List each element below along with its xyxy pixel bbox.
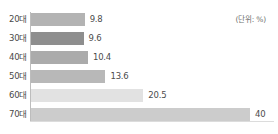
bar-track: 10.4 xyxy=(31,51,274,64)
baseline-rule xyxy=(30,121,274,122)
category-label: 50대 xyxy=(0,67,27,86)
bar-segment xyxy=(31,89,143,102)
plot-area: 20대 9.8 30대 9.6 40대 10.4 50대 13. xyxy=(0,10,278,124)
category-label: 30대 xyxy=(0,29,27,48)
category-label: 40대 xyxy=(0,48,27,67)
bar-segment xyxy=(31,51,88,64)
bar-track: 13.6 xyxy=(31,70,274,83)
bar-value-label: 20.5 xyxy=(148,89,166,102)
category-label: 60대 xyxy=(0,86,27,105)
bar-chart: (단위: %) 20대 9.8 30대 9.6 40대 10.4 50 xyxy=(0,0,278,134)
bar-row: 20대 9.8 xyxy=(0,10,278,29)
bar-segment xyxy=(31,13,85,26)
category-label: 70대 xyxy=(0,105,27,124)
bar-track: 9.8 xyxy=(31,13,274,26)
bar-value-label: 9.8 xyxy=(90,13,103,26)
bar-track: 40 xyxy=(31,108,274,121)
bar-row: 50대 13.6 xyxy=(0,67,278,86)
bar-track: 9.6 xyxy=(31,32,274,45)
bar-row: 40대 10.4 xyxy=(0,48,278,67)
bar-value-label: 40 xyxy=(255,108,265,121)
bar-segment xyxy=(31,108,250,121)
bar-value-label: 13.6 xyxy=(110,70,128,83)
bar-segment xyxy=(31,70,105,83)
bar-row: 30대 9.6 xyxy=(0,29,278,48)
bar-value-label: 9.6 xyxy=(89,32,102,45)
category-label: 20대 xyxy=(0,10,27,29)
bar-row: 60대 20.5 xyxy=(0,86,278,105)
bar-track: 20.5 xyxy=(31,89,274,102)
bar-value-label: 10.4 xyxy=(93,51,111,64)
bar-segment xyxy=(31,32,84,45)
